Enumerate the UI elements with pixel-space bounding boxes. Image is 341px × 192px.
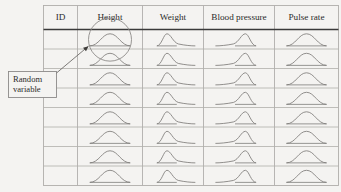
cell-distribution-height-row-5 <box>90 112 130 124</box>
cell-distribution-blood_pressure-row-8 <box>216 170 256 182</box>
distribution-curve <box>90 92 130 104</box>
table-outer-border <box>44 6 339 186</box>
cell-distribution-height-row-7 <box>90 151 130 163</box>
distribution-curve <box>287 92 327 104</box>
column-header-blood_pressure: Blood pressure <box>211 12 266 22</box>
column-header-id: ID <box>56 12 66 22</box>
distribution-curve <box>216 131 256 143</box>
distribution-curve <box>157 92 195 104</box>
data-table <box>44 6 339 186</box>
distribution-curve <box>216 92 256 104</box>
callout-label-line-2: variable <box>13 84 41 94</box>
cell-distribution-blood_pressure-row-5 <box>216 112 256 124</box>
callout-arrow-line <box>57 46 89 73</box>
distribution-curve <box>90 34 130 46</box>
cell-distribution-blood_pressure-row-6 <box>216 131 256 143</box>
distribution-curves-layer <box>90 34 326 183</box>
distribution-curve <box>90 53 130 65</box>
table-header-row: IDHeightWeightBlood pressurePulse rate <box>56 12 325 22</box>
cell-distribution-pulse_rate-row-1 <box>287 34 327 46</box>
distribution-curve <box>287 131 327 143</box>
cell-distribution-weight-row-6 <box>157 131 195 143</box>
distribution-curve <box>157 112 195 124</box>
cell-distribution-blood_pressure-row-3 <box>216 73 256 85</box>
distribution-curve <box>216 53 256 65</box>
cell-distribution-pulse_rate-row-8 <box>287 170 327 182</box>
distribution-curve <box>90 170 130 182</box>
distribution-curve <box>157 53 195 65</box>
distribution-curve <box>287 73 327 85</box>
distribution-curve <box>216 73 256 85</box>
cell-distribution-pulse_rate-row-2 <box>287 53 327 65</box>
distribution-curve <box>157 73 195 85</box>
cell-distribution-pulse_rate-row-4 <box>287 92 327 104</box>
cell-distribution-blood_pressure-row-7 <box>216 151 256 163</box>
column-header-weight: Weight <box>160 12 187 22</box>
distribution-curve <box>157 151 195 163</box>
cell-distribution-weight-row-5 <box>157 112 195 124</box>
distribution-curve <box>157 170 195 182</box>
distribution-curve <box>287 112 327 124</box>
distribution-curve <box>90 73 130 85</box>
cell-distribution-height-row-4 <box>90 92 130 104</box>
cell-distribution-pulse_rate-row-3 <box>287 73 327 85</box>
cell-distribution-pulse_rate-row-7 <box>287 151 327 163</box>
distribution-curve <box>216 151 256 163</box>
cell-distribution-blood_pressure-row-4 <box>216 92 256 104</box>
cell-distribution-blood_pressure-row-2 <box>216 53 256 65</box>
cell-distribution-weight-row-8 <box>157 170 195 182</box>
distribution-curve <box>287 53 327 65</box>
cell-distribution-height-row-2 <box>90 53 130 65</box>
cell-distribution-weight-row-1 <box>157 34 195 46</box>
cell-distribution-weight-row-7 <box>157 151 195 163</box>
distribution-curve <box>216 170 256 182</box>
column-header-pulse_rate: Pulse rate <box>289 12 325 22</box>
distribution-curve <box>287 170 327 182</box>
distribution-curve <box>287 34 327 46</box>
distribution-curve <box>157 34 195 46</box>
cell-distribution-weight-row-3 <box>157 73 195 85</box>
callout-label-line-1: Random <box>13 74 42 84</box>
distribution-curve <box>90 112 130 124</box>
distribution-curve <box>216 34 256 46</box>
highlight-circle <box>89 18 132 61</box>
cell-distribution-weight-row-4 <box>157 92 195 104</box>
distribution-curve <box>90 131 130 143</box>
cell-distribution-pulse_rate-row-6 <box>287 131 327 143</box>
cell-distribution-pulse_rate-row-5 <box>287 112 327 124</box>
cell-distribution-height-row-3 <box>90 73 130 85</box>
distribution-curve <box>287 151 327 163</box>
distribution-curve <box>216 112 256 124</box>
cell-distribution-height-row-8 <box>90 170 130 182</box>
random-variable-table-figure: IDHeightWeightBlood pressurePulse rate R… <box>0 0 341 192</box>
distribution-curve <box>157 131 195 143</box>
cell-distribution-blood_pressure-row-1 <box>216 34 256 46</box>
cell-distribution-weight-row-2 <box>157 53 195 65</box>
cell-distribution-height-row-6 <box>90 131 130 143</box>
distribution-curve <box>90 151 130 163</box>
cell-distribution-height-row-1 <box>90 34 130 46</box>
